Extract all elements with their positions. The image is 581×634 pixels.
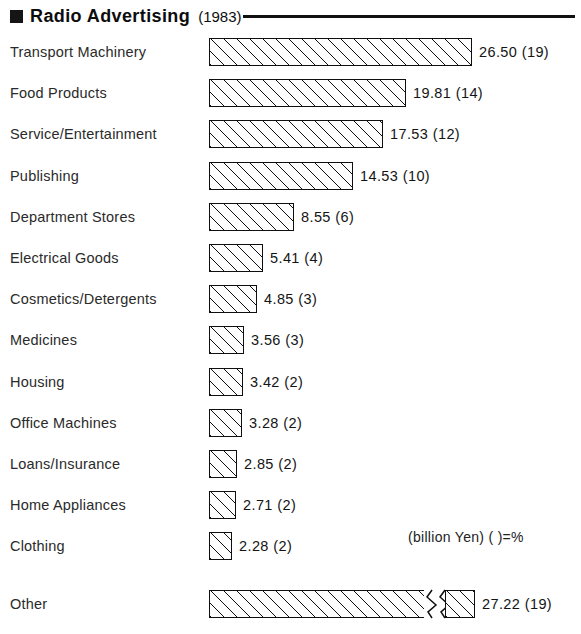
page-title: Radio Advertising: [30, 6, 190, 27]
bar: [209, 285, 257, 313]
bar-segment-right: [445, 590, 475, 618]
category-label: Transport Machinery: [10, 38, 146, 66]
chart-row: Other27.22 (19): [0, 590, 581, 618]
chart-row: Loans/Insurance2.85 (2): [0, 450, 581, 478]
bar-container: [209, 203, 294, 231]
bar: [209, 532, 232, 560]
bar-container: [209, 409, 242, 437]
bar: [209, 203, 294, 231]
category-label: Home Appliances: [10, 491, 126, 519]
bar: [209, 450, 237, 478]
chart-row: Housing3.42 (2): [0, 368, 581, 396]
value-label: 2.85 (2): [244, 450, 297, 478]
value-label: 3.56 (3): [251, 326, 304, 354]
bar: [209, 79, 406, 107]
bar-container: [209, 450, 237, 478]
bar: [209, 326, 244, 354]
chart-row: Department Stores8.55 (6): [0, 203, 581, 231]
chart-row: Transport Machinery26.50 (19): [0, 38, 581, 66]
value-label: 19.81 (14): [413, 79, 483, 107]
category-label: Department Stores: [10, 203, 135, 231]
value-label: 3.42 (2): [250, 368, 303, 396]
bar-container: [209, 38, 472, 66]
value-label: 2.28 (2): [239, 532, 292, 560]
bar-container: [209, 285, 257, 313]
header-rule-line: [243, 15, 575, 18]
units-note: (billion Yen) ( )=%: [408, 529, 524, 545]
chart-row: Medicines3.56 (3): [0, 326, 581, 354]
category-label: Loans/Insurance: [10, 450, 120, 478]
bar: [209, 491, 236, 519]
category-label: Publishing: [10, 162, 79, 190]
category-label: Cosmetics/Detergents: [10, 285, 157, 313]
radio-advertising-chart-page: { "header": { "marker": "filled-square-b…: [0, 0, 581, 634]
bar-container: [209, 326, 244, 354]
bar-container: [209, 244, 263, 272]
bar-container: [209, 368, 243, 396]
bar: [209, 38, 472, 66]
value-label: 14.53 (10): [360, 162, 430, 190]
value-label: 5.41 (4): [270, 244, 323, 272]
value-label: 4.85 (3): [264, 285, 317, 313]
chart-row: Food Products19.81 (14): [0, 79, 581, 107]
value-label: 17.53 (12): [390, 120, 460, 148]
value-label: 3.28 (2): [249, 409, 302, 437]
category-label: Office Machines: [10, 409, 117, 437]
value-label: 26.50 (19): [479, 38, 549, 66]
bar-container: [209, 162, 353, 190]
page-title-year: (1983): [198, 8, 241, 25]
category-label: Other: [10, 590, 47, 618]
bar-container: [209, 79, 406, 107]
bar-container: [209, 590, 475, 618]
filled-square-bullet-icon: [10, 10, 23, 23]
chart-row: Publishing14.53 (10): [0, 162, 581, 190]
bar: [209, 162, 353, 190]
bar: [209, 120, 383, 148]
bar-container: [209, 532, 232, 560]
category-label: Electrical Goods: [10, 244, 119, 272]
chart-row: Service/Entertainment17.53 (12): [0, 120, 581, 148]
bar: [209, 244, 263, 272]
chart-row: Electrical Goods5.41 (4): [0, 244, 581, 272]
chart-row: Office Machines3.28 (2): [0, 409, 581, 437]
bar: [209, 368, 243, 396]
bar: [209, 409, 242, 437]
chart-row: Home Appliances2.71 (2): [0, 491, 581, 519]
category-label: Clothing: [10, 532, 65, 560]
value-label: 27.22 (19): [482, 590, 552, 618]
chart-row: Cosmetics/Detergents4.85 (3): [0, 285, 581, 313]
bar-segment-left: [209, 590, 432, 618]
bar-container: [209, 491, 236, 519]
category-label: Service/Entertainment: [10, 120, 157, 148]
category-label: Housing: [10, 368, 65, 396]
value-label: 2.71 (2): [243, 491, 296, 519]
category-label: Food Products: [10, 79, 107, 107]
chart-header: Radio Advertising (1983): [0, 0, 581, 32]
bar-container: [209, 120, 383, 148]
value-label: 8.55 (6): [301, 203, 354, 231]
category-label: Medicines: [10, 326, 77, 354]
